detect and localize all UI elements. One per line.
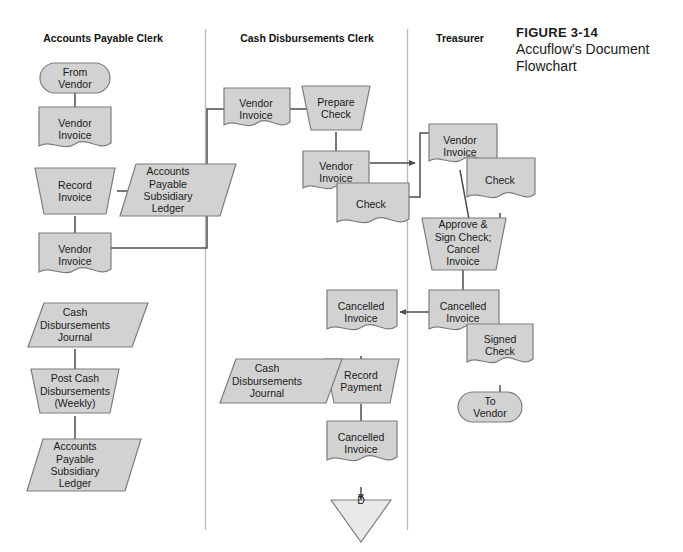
swimlane-header-cash-disbursements-clerk: Cash Disbursements Clerk	[212, 32, 402, 44]
node-ap-subsidiary-ledger-2[interactable]	[27, 439, 141, 491]
node-connector-d[interactable]	[331, 500, 391, 542]
node-treasurer-check[interactable]	[467, 158, 535, 198]
node-treasurer-vendor-invoice[interactable]	[429, 124, 497, 162]
swimlane-header-accounts-payable-clerk: Accounts Payable Clerk	[10, 32, 196, 44]
node-to-vendor[interactable]	[458, 392, 522, 422]
shapes	[27, 63, 535, 542]
node-approve-sign-check[interactable]	[422, 218, 506, 270]
node-signed-check[interactable]	[467, 324, 533, 363]
node-ap-subsidiary-ledger-1[interactable]	[120, 164, 236, 216]
figure-caption: FIGURE 3-14 Accuflow's Document Flowchar…	[516, 24, 676, 75]
node-cdc-check[interactable]	[337, 183, 409, 223]
figure-number: FIGURE 3-14	[516, 24, 676, 41]
node-post-cash-disbursements[interactable]	[31, 369, 119, 413]
node-cdc-vendor-invoice[interactable]	[224, 88, 290, 126]
node-ap-vendor-invoice[interactable]	[39, 107, 111, 147]
node-ap-vendor-invoice-2[interactable]	[39, 233, 111, 273]
node-cdc-cancelled-invoice-2[interactable]	[327, 421, 397, 461]
node-prepare-check[interactable]	[302, 86, 370, 130]
flowchart-canvas	[0, 0, 683, 552]
swimlane-header-treasurer: Treasurer	[412, 32, 508, 44]
node-record-invoice[interactable]	[35, 168, 115, 214]
node-cash-disbursements-journal-2[interactable]	[220, 359, 342, 403]
node-cdc-cancelled-invoice[interactable]	[327, 290, 397, 330]
node-from-vendor[interactable]	[40, 63, 110, 93]
node-cash-disbursements-journal-1[interactable]	[28, 303, 148, 347]
figure-title: Accuflow's Document Flowchart	[516, 41, 676, 75]
